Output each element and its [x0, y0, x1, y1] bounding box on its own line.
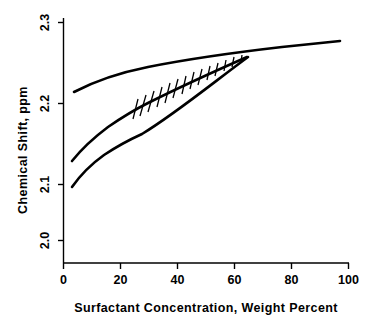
x-tick-marks [64, 263, 349, 269]
x-tick-label-0: 0 [60, 273, 67, 287]
hatched-region [133, 55, 242, 119]
chart-canvas: 2.3 2.2 2.1 2.0 0 20 40 60 80 100 Chemic… [0, 0, 371, 323]
y-tick-label-3: 2.0 [38, 232, 52, 249]
lower-curve [72, 57, 248, 187]
y-tick-labels: 2.3 2.2 2.1 2.0 [38, 14, 52, 249]
y-tick-marks [58, 23, 64, 241]
x-tick-label-60: 60 [228, 273, 242, 287]
upper-curve [74, 41, 340, 92]
y-tick-label-2: 2.1 [38, 176, 52, 193]
chart-figure: 2.3 2.2 2.1 2.0 0 20 40 60 80 100 Chemic… [0, 0, 371, 323]
x-tick-labels: 0 20 40 60 80 100 [60, 273, 359, 287]
y-tick-label-0: 2.3 [38, 14, 52, 31]
x-axis-title: Surfactant Concentration, Weight Percent [74, 301, 338, 315]
y-tick-label-1: 2.2 [38, 95, 52, 112]
x-tick-label-100: 100 [338, 273, 359, 287]
x-tick-label-40: 40 [171, 273, 185, 287]
axis-group [64, 18, 350, 263]
x-tick-label-20: 20 [114, 273, 128, 287]
x-tick-label-80: 80 [285, 273, 299, 287]
y-axis-title: Chemical Shift, ppm [16, 86, 30, 214]
middle-curve [72, 57, 247, 161]
